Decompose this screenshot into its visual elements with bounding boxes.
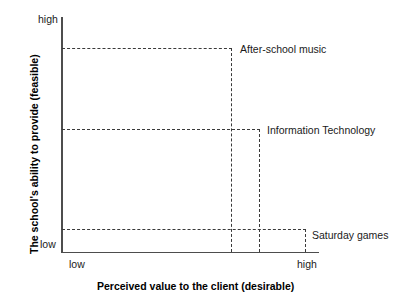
x-axis-line <box>61 252 319 254</box>
y-axis-tick-low: low <box>40 238 56 250</box>
data-point-label-saturday-games: Saturday games <box>312 229 388 241</box>
priority-matrix-chart: The school's ability to provide (feasibl… <box>0 0 405 302</box>
x-axis-title: Perceived value to the client (desirable… <box>97 280 294 292</box>
leader-line-horizontal-saturday-games <box>62 229 306 230</box>
x-axis-tick-high: high <box>297 258 317 270</box>
data-point-label-information-technology: Information Technology <box>267 124 375 136</box>
leader-line-horizontal-information-technology <box>62 129 260 130</box>
data-point-label-afterschool-music: After-school music <box>240 43 326 55</box>
leader-line-vertical-afterschool-music <box>231 48 232 252</box>
y-axis-line <box>61 17 63 253</box>
y-axis-title: The school's ability to provide (feasibl… <box>28 14 42 254</box>
leader-line-vertical-saturday-games <box>305 229 306 252</box>
leader-line-horizontal-afterschool-music <box>62 48 232 49</box>
x-axis-tick-low: low <box>69 258 85 270</box>
leader-line-vertical-information-technology <box>259 129 260 252</box>
y-axis-tick-high: high <box>38 13 58 25</box>
